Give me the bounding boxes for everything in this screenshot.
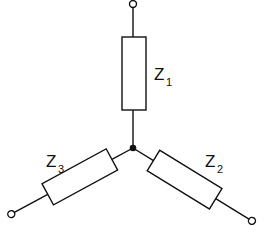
label-z2: Z [205, 152, 215, 171]
label-z3-sub: 3 [58, 163, 64, 175]
label-z1: Z [154, 65, 164, 84]
junction-dot [130, 145, 137, 152]
wire-right-inner [133, 148, 153, 161]
y-network-diagram: Z 1 Z 2 Z 3 [0, 0, 268, 237]
terminal-right [247, 216, 257, 226]
wire-right-outer [216, 199, 249, 219]
terminal-left [7, 209, 16, 218]
terminal-top [130, 1, 137, 8]
circuit-svg: Z 1 Z 2 Z 3 [0, 0, 268, 237]
label-z2-sub: 2 [217, 163, 223, 175]
label-z1-sub: 1 [166, 76, 172, 88]
label-z3: Z [46, 152, 56, 171]
wire-left-inner [112, 148, 133, 159]
wire-left-outer [14, 194, 47, 212]
impedance-z1 [122, 37, 146, 110]
